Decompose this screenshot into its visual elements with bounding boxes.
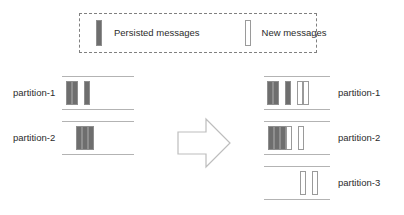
before-partition-2-box (62, 121, 134, 155)
message-bar (303, 81, 309, 105)
after-partition-3-slots (300, 171, 318, 195)
before-partition-1-slots (66, 81, 90, 105)
legend-box: Persisted messages New messages (79, 13, 317, 53)
legend-label-new: New messages (262, 28, 327, 38)
after-partition-2-box (264, 121, 330, 155)
after-partition-3-label: partition-3 (338, 178, 380, 188)
message-bar (84, 81, 90, 105)
before-partition-2-label: partition-2 (13, 133, 55, 143)
after-partition-2-label: partition-2 (338, 133, 380, 143)
message-bar (298, 126, 304, 150)
legend-entry-persisted: Persisted messages (96, 20, 200, 46)
before-partition-2-row: partition-2 (13, 121, 134, 155)
before-partition-1-box (62, 76, 134, 110)
message-bar (88, 126, 94, 150)
right-arrow-icon (176, 117, 232, 169)
before-partition-2-slots (76, 126, 94, 150)
after-partition-3-row: partition-3 (264, 166, 380, 200)
message-bar (312, 171, 318, 195)
legend-label-persisted: Persisted messages (114, 28, 200, 38)
after-partition-1-box (264, 76, 330, 110)
persisted-message-bar-icon (96, 20, 102, 46)
legend-entry-new: New messages (245, 20, 327, 46)
before-partition-1-row: partition-1 (13, 76, 134, 110)
new-message-bar-icon (245, 20, 251, 46)
after-partition-1-row: partition-1 (264, 76, 380, 110)
after-partition-1-label: partition-1 (338, 88, 380, 98)
after-partition-1-slots (267, 81, 309, 105)
after-partition-2-slots (268, 126, 304, 150)
after-partition-3-box (264, 166, 330, 200)
after-partition-2-row: partition-2 (264, 121, 380, 155)
before-partition-1-label: partition-1 (13, 88, 55, 98)
